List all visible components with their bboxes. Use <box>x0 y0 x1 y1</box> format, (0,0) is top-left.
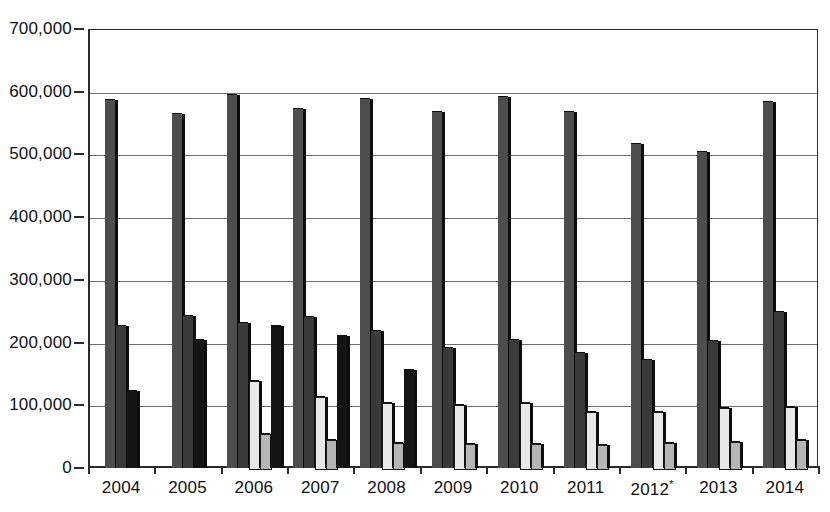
y-tick-mark <box>74 467 84 469</box>
bar-top-edge <box>719 407 729 408</box>
x-tick-footnote-marker: * <box>669 478 673 490</box>
bar-top-edge <box>564 111 574 112</box>
bar-2008-series-c <box>382 403 392 468</box>
bar-top-edge <box>774 311 784 312</box>
bar-face <box>443 348 453 468</box>
bar-face <box>564 112 574 468</box>
bar-face <box>337 336 347 468</box>
bar-top-edge <box>432 111 442 112</box>
bar-2009-series-a <box>432 112 442 468</box>
y-tick-label: 600,000 <box>9 82 72 102</box>
bar-2013-series-b <box>708 341 718 468</box>
bar-top-edge <box>304 316 314 317</box>
bar-2006-series-e <box>271 326 281 468</box>
bar-top-edge <box>631 143 641 144</box>
y-tick-mark <box>74 153 84 155</box>
bar-2012-series-a <box>631 144 641 468</box>
bar-2010-series-b <box>509 340 519 468</box>
bar-face <box>194 340 204 468</box>
x-tick-label-2009: 2009 <box>434 478 473 498</box>
x-tick-label-2007: 2007 <box>301 478 340 498</box>
y-tick-label: 0 <box>62 458 72 478</box>
bar-2013-series-a <box>697 152 707 468</box>
bar-2014-series-a <box>763 102 773 468</box>
bar-2007-series-a <box>293 109 303 468</box>
bar-2013-series-d <box>730 442 740 468</box>
bar-top-edge <box>520 402 530 403</box>
x-tick-mark <box>287 466 289 474</box>
y-tick-mark <box>74 404 84 406</box>
bar-top-edge <box>465 443 475 444</box>
bar-top-edge <box>575 352 585 353</box>
bar-shadow-edge <box>740 442 743 468</box>
bar-face <box>774 312 784 468</box>
y-tick-label: 700,000 <box>9 19 72 39</box>
bar-group <box>432 29 475 468</box>
bar-face <box>371 331 381 468</box>
bar-top-edge <box>708 340 718 341</box>
y-tick-mark <box>74 342 84 344</box>
bar-top-edge <box>293 108 303 109</box>
bar-2004-series-e <box>127 391 137 468</box>
bar-top-edge <box>586 411 596 412</box>
bar-top-edge <box>183 315 193 316</box>
bar-face <box>304 317 314 468</box>
bar-top-edge <box>105 99 115 100</box>
x-axis: 200420052006200720082009201020112012*201… <box>88 472 818 512</box>
bar-shadow-edge <box>806 440 809 468</box>
x-tick-mark <box>752 466 754 474</box>
bar-top-edge <box>730 441 740 442</box>
bar-face <box>127 391 137 468</box>
bar-2014-series-d <box>796 440 806 468</box>
bar-2006-series-c <box>249 381 259 468</box>
y-tick-label: 300,000 <box>9 270 72 290</box>
bar-top-edge <box>194 339 204 340</box>
bar-shadow-edge <box>607 445 610 468</box>
y-tick-mark <box>74 91 84 93</box>
bar-face <box>360 99 370 468</box>
bar-face <box>105 100 115 468</box>
bar-2006-series-a <box>227 95 237 468</box>
x-tick-mark <box>154 466 156 474</box>
x-tick-label-2005: 2005 <box>168 478 207 498</box>
bar-face <box>498 97 508 468</box>
bar-top-edge <box>127 390 137 391</box>
bar-2005-series-e <box>194 340 204 468</box>
bar-shadow-edge <box>475 444 478 468</box>
bar-2010-series-a <box>498 97 508 468</box>
bar-2012-series-d <box>664 443 674 468</box>
bar-shadow-edge <box>137 391 140 468</box>
bar-group <box>697 29 740 468</box>
bar-2011-series-b <box>575 353 585 468</box>
bar-face <box>183 316 193 468</box>
y-tick-mark <box>74 28 84 30</box>
bar-group <box>631 29 674 468</box>
bar-top-edge <box>326 439 336 440</box>
bar-top-edge <box>227 94 237 95</box>
bar-2005-series-a <box>172 114 182 468</box>
bar-face <box>708 341 718 468</box>
bar-2012-series-b <box>642 360 652 468</box>
bar-2007-series-e <box>337 336 347 468</box>
bar-2012-series-c <box>653 412 663 468</box>
bar-group <box>498 29 541 468</box>
bar-2008-series-e <box>404 370 414 468</box>
bar-group <box>227 29 281 468</box>
bar-shadow-edge <box>347 336 350 468</box>
bar-2010-series-c <box>520 403 530 468</box>
x-tick-mark <box>353 466 355 474</box>
bar-top-edge <box>796 439 806 440</box>
y-tick-mark <box>74 216 84 218</box>
bar-2014-series-c <box>785 407 795 468</box>
bar-2004-series-a <box>105 100 115 468</box>
bar-face <box>642 360 652 468</box>
bar-top-edge <box>260 433 270 434</box>
bar-2010-series-d <box>531 444 541 468</box>
bar-shadow-edge <box>204 340 207 468</box>
bar-face <box>763 102 773 468</box>
bar-top-edge <box>697 151 707 152</box>
bar-2014-series-b <box>774 312 784 468</box>
bar-2008-series-d <box>393 443 403 468</box>
x-tick-mark <box>619 466 621 474</box>
bar-2011-series-d <box>597 445 607 468</box>
